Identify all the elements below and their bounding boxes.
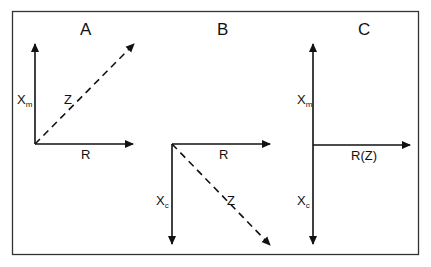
diagram-frame	[13, 12, 419, 255]
panel-a: A Xm Z R	[17, 20, 134, 162]
rz-label: R(Z)	[351, 148, 377, 163]
z-label: Z	[227, 193, 235, 208]
xm-label: Xm	[297, 92, 313, 109]
panel-title-b: B	[217, 20, 228, 39]
z-label: Z	[64, 92, 72, 107]
r-label: R	[219, 147, 228, 162]
impedance-diagram: A Xm Z R B R Xc Z C Xm Xc R(Z)	[0, 0, 431, 267]
panel-title-c: C	[358, 20, 370, 39]
impedance-vector	[35, 44, 134, 144]
panel-c: C Xm Xc R(Z)	[297, 20, 410, 244]
xc-label: Xc	[297, 193, 310, 210]
xm-label: Xm	[17, 92, 33, 109]
panel-b: B R Xc Z	[156, 20, 270, 245]
panel-title-a: A	[80, 20, 92, 39]
xc-label: Xc	[156, 193, 169, 210]
r-label: R	[81, 147, 90, 162]
